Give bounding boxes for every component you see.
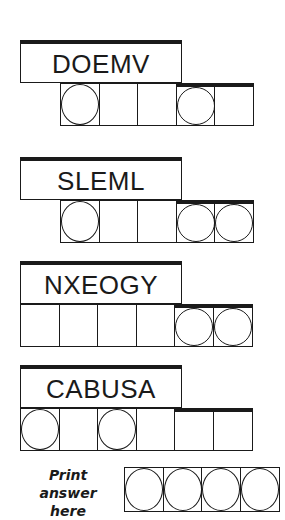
- letter-cell[interactable]: [137, 200, 177, 243]
- scrambled-word-box: SLEML: [20, 157, 182, 200]
- circle-icon: [214, 308, 252, 346]
- circle-icon: [202, 468, 240, 511]
- circle-icon: [177, 87, 215, 125]
- circle-icon: [241, 468, 279, 511]
- letter-cell-circled[interactable]: [214, 200, 254, 243]
- answer-label: Print answer here: [18, 466, 118, 520]
- circle-icon: [21, 409, 59, 450]
- circle-icon: [177, 204, 215, 242]
- letter-cell-circled[interactable]: [60, 200, 100, 243]
- letter-cell-circled[interactable]: [174, 304, 214, 347]
- answer-cells: [60, 200, 254, 243]
- letter-cell-circled[interactable]: [20, 408, 60, 451]
- circle-icon: [125, 468, 163, 511]
- scrambled-word-box: CABUSA: [20, 365, 182, 408]
- scrambled-word: NXEOGY: [21, 270, 181, 301]
- letter-cell-circled[interactable]: [176, 83, 216, 126]
- scrambled-word-box: DOEMV: [20, 40, 182, 83]
- answer-cell-circled[interactable]: [163, 467, 203, 512]
- circle-icon: [215, 204, 253, 242]
- answer-cell-circled[interactable]: [124, 467, 164, 512]
- answer-label-line1: Print answer: [18, 466, 118, 502]
- answer-cells: [60, 83, 254, 126]
- letter-cell[interactable]: [174, 408, 214, 451]
- letter-cell[interactable]: [97, 304, 137, 347]
- answer-cell-circled[interactable]: [240, 467, 280, 512]
- final-answer-cells: [124, 467, 280, 512]
- letter-cell[interactable]: [99, 200, 139, 243]
- letter-cell[interactable]: [137, 83, 177, 126]
- scrambled-word: DOEMV: [21, 49, 181, 80]
- answer-cells: [20, 408, 253, 451]
- letter-cell[interactable]: [99, 83, 139, 126]
- circle-icon: [61, 201, 99, 242]
- circle-icon: [164, 468, 202, 511]
- scrambled-word-box: NXEOGY: [20, 261, 182, 304]
- letter-cell[interactable]: [20, 304, 60, 347]
- answer-cell-circled[interactable]: [201, 467, 241, 512]
- letter-cell[interactable]: [59, 304, 99, 347]
- letter-cell[interactable]: [136, 304, 176, 347]
- letter-cell[interactable]: [214, 83, 254, 126]
- letter-cell[interactable]: [136, 408, 176, 451]
- answer-label-line2: here: [18, 502, 118, 520]
- letter-cell[interactable]: [59, 408, 99, 451]
- circle-icon: [61, 84, 99, 125]
- answer-cells: [20, 304, 253, 347]
- scrambled-word: CABUSA: [21, 374, 181, 405]
- letter-cell-circled[interactable]: [97, 408, 137, 451]
- circle-icon: [175, 308, 213, 346]
- circle-icon: [98, 409, 136, 450]
- letter-cell[interactable]: [213, 408, 253, 451]
- scrambled-word: SLEML: [21, 166, 181, 197]
- letter-cell-circled[interactable]: [176, 200, 216, 243]
- letter-cell-circled[interactable]: [60, 83, 100, 126]
- letter-cell-circled[interactable]: [213, 304, 253, 347]
